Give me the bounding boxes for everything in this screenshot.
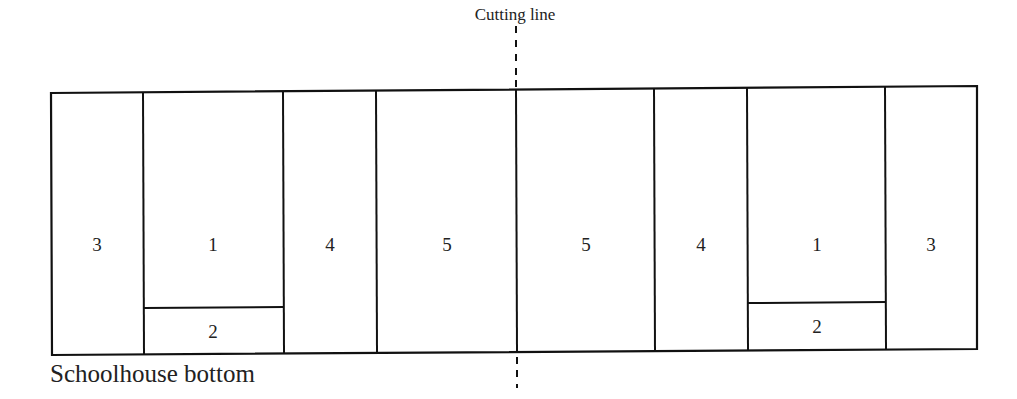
divider-1-4-left	[283, 91, 284, 353]
divider-1-2-left	[144, 307, 284, 308]
cutting-line-center	[516, 89, 517, 352]
divider-1-3-right	[885, 87, 886, 349]
cell-label-left-2: 2	[208, 321, 218, 342]
horizontal-dividers	[144, 302, 886, 308]
cell-label-right-5: 5	[581, 234, 591, 255]
cell-label-left-3: 3	[92, 234, 102, 255]
cell-label-left-1: 1	[208, 234, 218, 255]
divider-4-5-left	[376, 90, 377, 353]
divider-1-2-right	[748, 302, 886, 303]
board-outline	[51, 86, 977, 355]
divider-3-1-left	[143, 92, 144, 354]
diagram-caption: Schoolhouse bottom	[50, 360, 255, 388]
divider-5-4-right	[654, 88, 655, 351]
divider-4-1-right	[747, 88, 748, 350]
cell-label-right-3: 3	[926, 234, 936, 255]
vertical-dividers	[143, 87, 886, 354]
schoolhouse-bottom-diagram: Cutting line 3 1 2 4 5 5 4 1 2 3	[0, 0, 1017, 399]
cell-label-left-4: 4	[325, 234, 335, 255]
cell-label-left-5: 5	[442, 234, 452, 255]
cell-label-right-4: 4	[696, 234, 706, 255]
cell-label-right-2: 2	[812, 316, 822, 337]
cutting-line-label: Cutting line	[475, 5, 556, 24]
cell-label-right-1: 1	[812, 234, 822, 255]
